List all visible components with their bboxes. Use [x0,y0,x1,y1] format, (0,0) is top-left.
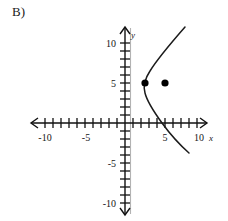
y-tick-label-neg5: -5 [108,158,116,169]
data-point-vertex[interactable] [141,79,148,86]
coordinate-plane: -10 -5 5 10 10 5 -5 -10 x y [0,0,228,221]
graph-figure: B) [0,0,228,221]
y-tick-label-5: 5 [111,78,116,89]
x-axis-label: x [208,133,213,143]
panel-label: B) [12,5,25,18]
y-axis-label: y [130,30,135,40]
x-tick-label-neg10: -10 [38,132,51,143]
x-tick-label-10: 10 [194,132,204,143]
x-tick-label-neg5: -5 [82,132,90,143]
data-point-focus[interactable] [161,79,168,86]
y-tick-label-10: 10 [106,38,116,49]
x-tick-label-5: 5 [163,132,168,143]
y-tick-label-neg10: -10 [103,198,116,209]
